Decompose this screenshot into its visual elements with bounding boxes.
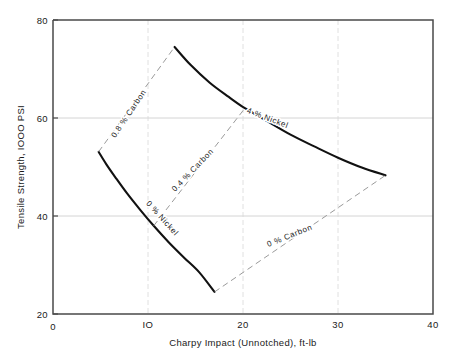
y-axis-title: Tensile Strength, IOOO PSI bbox=[15, 105, 26, 229]
y-tick-label-80: 80 bbox=[37, 15, 48, 26]
x-tick-label-30: 30 bbox=[332, 319, 343, 330]
y-tick-label-40: 40 bbox=[37, 211, 48, 222]
x-axis-title: Charpy Impact (Unnotched), ft-lb bbox=[169, 337, 316, 348]
x-tick-label-40: 40 bbox=[427, 319, 438, 330]
x-tick-label-10: IO bbox=[143, 319, 154, 330]
x-tick-label-20: 20 bbox=[237, 319, 248, 330]
y-tick-label-20: 20 bbox=[37, 309, 48, 320]
x-tick-label-0: 0 bbox=[50, 321, 56, 332]
tensile-strength-charpy-impact-chart: 80 60 40 20 0 IO 20 30 40 Charpy Impact … bbox=[0, 0, 460, 356]
chart-background bbox=[0, 0, 460, 356]
y-tick-label-60: 60 bbox=[37, 113, 48, 124]
